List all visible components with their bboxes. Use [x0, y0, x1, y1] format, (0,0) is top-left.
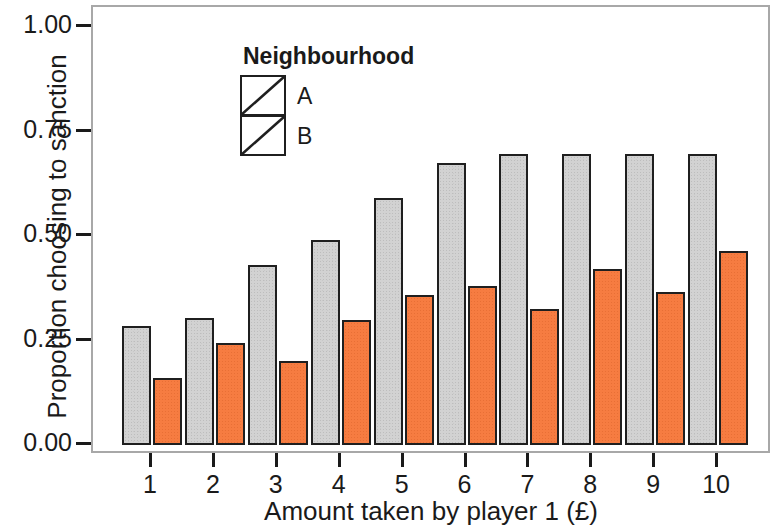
x-tick-label: 8 [560, 470, 620, 499]
x-tick-label: 10 [686, 470, 746, 499]
bar-9-B [656, 292, 685, 445]
y-tick-label: 0.75 [0, 115, 72, 144]
bar-6-B [468, 286, 497, 445]
bar-5-B [405, 295, 434, 445]
plot-area: Neighbourhood A B [91, 5, 770, 453]
legend-swatch-a [240, 75, 286, 116]
x-tick-mark [275, 453, 278, 467]
y-tick-mark [76, 442, 91, 445]
y-tick-label: 0.00 [0, 428, 72, 457]
x-tick-mark [149, 453, 152, 467]
bar-8-A [562, 154, 591, 445]
x-tick-label: 1 [120, 470, 180, 499]
bar-2-A [185, 318, 214, 445]
y-tick-label: 0.25 [0, 324, 72, 353]
bar-chart-figure: Proportion choosing to sanction Amount t… [0, 0, 777, 529]
y-tick-mark [76, 233, 91, 236]
x-tick-mark [212, 453, 215, 467]
y-tick-mark [76, 24, 91, 27]
bar-1-A [122, 326, 151, 445]
x-tick-mark [715, 453, 718, 467]
x-tick-mark [338, 453, 341, 467]
legend-swatch-b [240, 115, 286, 156]
bars-layer [93, 7, 768, 451]
bar-4-A [311, 240, 340, 445]
bar-8-B [593, 269, 622, 445]
y-tick-label: 0.50 [0, 219, 72, 248]
bar-1-B [153, 378, 182, 445]
bar-5-A [374, 198, 403, 445]
x-tick-label: 4 [309, 470, 369, 499]
bar-10-A [688, 154, 717, 445]
x-axis-title: Amount taken by player 1 (£) [91, 496, 771, 527]
x-tick-label: 9 [623, 470, 683, 499]
x-tick-label: 5 [372, 470, 432, 499]
x-tick-mark [589, 453, 592, 467]
legend-label-a: A [297, 83, 312, 110]
bar-7-A [499, 154, 528, 445]
x-tick-label: 3 [246, 470, 306, 499]
bar-4-B [342, 320, 371, 445]
y-tick-mark [76, 338, 91, 341]
legend-diagonal-a-icon [240, 75, 286, 116]
bar-3-B [279, 361, 308, 445]
x-tick-mark [464, 453, 467, 467]
legend-diagonal-b-icon [240, 115, 286, 156]
x-tick-label: 2 [183, 470, 243, 499]
bar-7-B [530, 309, 559, 445]
x-tick-mark [401, 453, 404, 467]
bar-6-A [437, 163, 466, 445]
bar-3-A [248, 265, 277, 445]
x-tick-mark [652, 453, 655, 467]
y-tick-mark [76, 129, 91, 132]
bar-2-B [216, 343, 245, 445]
y-tick-label: 1.00 [0, 10, 72, 39]
x-tick-label: 6 [435, 470, 495, 499]
x-tick-mark [526, 453, 529, 467]
x-tick-label: 7 [497, 470, 557, 499]
bar-9-A [625, 154, 654, 445]
legend-label-b: B [297, 123, 312, 150]
legend-title: Neighbourhood [243, 43, 414, 70]
bar-10-B [719, 251, 748, 445]
